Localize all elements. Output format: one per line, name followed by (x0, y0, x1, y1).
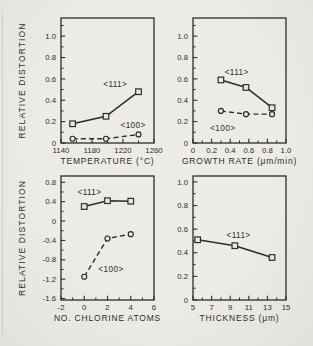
x-tick-label: 1.0 (281, 146, 293, 155)
series-annotation: <111> (227, 231, 251, 240)
series-annotation: <111> (225, 68, 249, 77)
y-tick-label: 0.6 (45, 75, 56, 84)
x-tick-label: 5 (191, 303, 196, 312)
x-axis-title: GROWTH RATE (μm/min) (182, 156, 297, 166)
x-tick-label: 0 (191, 146, 196, 155)
square-marker (243, 85, 249, 91)
y-tick-label: 0.2 (177, 117, 188, 126)
y-tick-label: 0 (184, 139, 189, 148)
y-tick-label: 0.2 (45, 117, 56, 126)
x-tick-label: 4 (129, 303, 134, 312)
square-marker (128, 198, 134, 204)
y-tick-label: 0.4 (177, 248, 189, 257)
series-annotation: <100> (98, 265, 123, 274)
x-tick-label: 1180 (84, 146, 101, 155)
square-marker (218, 77, 224, 83)
x-tick-label: 13 (263, 303, 272, 312)
x-tick-label: 0 (82, 303, 87, 312)
y-tick-label: 0.4 (45, 96, 57, 105)
circle-marker (270, 112, 275, 117)
square-marker (136, 89, 142, 95)
circle-marker (103, 136, 108, 141)
y-tick-label: 0.6 (177, 75, 188, 84)
panel-chlorine-atoms: -202460.80.40-0.4-0.8-1.2-1.6NO. CHLORIN… (17, 176, 161, 323)
axes-box (193, 18, 286, 143)
y-tick-label: -0.8 (43, 255, 56, 264)
y-tick-label: 0.8 (45, 53, 56, 62)
circle-marker (82, 274, 87, 279)
circle-marker (70, 136, 75, 141)
square-marker (105, 198, 111, 204)
x-tick-label: 2 (105, 303, 109, 312)
panel-growth-rate: 00.20.40.60.81.000.20.40.60.81.0GROWTH R… (177, 18, 297, 166)
square-marker (232, 243, 238, 249)
y-tick-label: -0.4 (43, 236, 57, 245)
y-tick-label: 0 (52, 139, 57, 148)
circle-marker (218, 108, 223, 113)
square-marker (103, 113, 109, 119)
y-tick-label: 1.0 (177, 32, 189, 41)
square-marker (269, 105, 275, 111)
circle-marker (128, 232, 133, 237)
y-tick-label: 0.6 (177, 225, 188, 234)
circle-marker (244, 112, 249, 117)
y-tick-label: -1.2 (43, 275, 56, 284)
x-tick-label: 0.6 (243, 146, 254, 155)
x-axis-title: THICKNESS (μm) (200, 313, 280, 323)
x-tick-label: 15 (282, 303, 291, 312)
x-tick-label: -2 (58, 303, 65, 312)
y-tick-label: 0.4 (177, 96, 189, 105)
y-tick-label: 1.0 (177, 178, 189, 187)
x-axis-title: NO. CHLORINE ATOMS (54, 313, 161, 323)
y-tick-label: 0.8 (177, 201, 188, 210)
series-annotation: <111> (77, 188, 101, 197)
square-marker (81, 204, 87, 210)
x-tick-label: 7 (209, 303, 213, 312)
x-tick-label: 0.8 (262, 146, 273, 155)
x-tick-label: 11 (245, 303, 253, 312)
x-tick-label: 6 (152, 303, 156, 312)
y-tick-label: -1.6 (43, 294, 56, 303)
y-tick-label: 0.8 (177, 53, 188, 62)
y-axis-title: RELATIVE DISTORTION (17, 23, 27, 139)
panel-temperature: 114011801220126000.20.40.60.81.0TEMPERAT… (17, 18, 163, 166)
square-marker (70, 121, 76, 127)
x-tick-label: 1220 (114, 146, 132, 155)
y-tick-label: 0.4 (45, 197, 57, 206)
relative-distortion-figure: 114011801220126000.20.40.60.81.0TEMPERAT… (0, 0, 313, 346)
panel-thickness: 57911131500.20.40.60.81.0THICKNESS (μm)<… (177, 176, 291, 323)
x-tick-label: 9 (228, 303, 232, 312)
series-annotation: <100> (210, 124, 235, 133)
square-marker (195, 237, 201, 243)
circle-marker (136, 132, 141, 137)
scanned-figure-page: 114011801220126000.20.40.60.81.0TEMPERAT… (0, 0, 313, 346)
x-axis-title: TEMPERATURE (°C) (61, 156, 155, 166)
circle-marker (105, 236, 110, 241)
y-tick-label: 0 (52, 217, 57, 226)
x-tick-label: 1260 (145, 146, 163, 155)
y-tick-label: 0.2 (177, 272, 188, 281)
x-tick-label: 0.4 (225, 146, 237, 155)
y-tick-label: 0 (184, 296, 189, 305)
series-annotation: <111> (103, 80, 127, 89)
square-marker (269, 255, 275, 261)
y-axis-title: RELATIVE DISTORTION (17, 180, 27, 296)
y-tick-label: 1.0 (45, 32, 57, 41)
series-annotation: <100> (120, 121, 145, 130)
y-tick-label: 0.8 (45, 178, 56, 187)
x-tick-label: 0.2 (206, 146, 217, 155)
